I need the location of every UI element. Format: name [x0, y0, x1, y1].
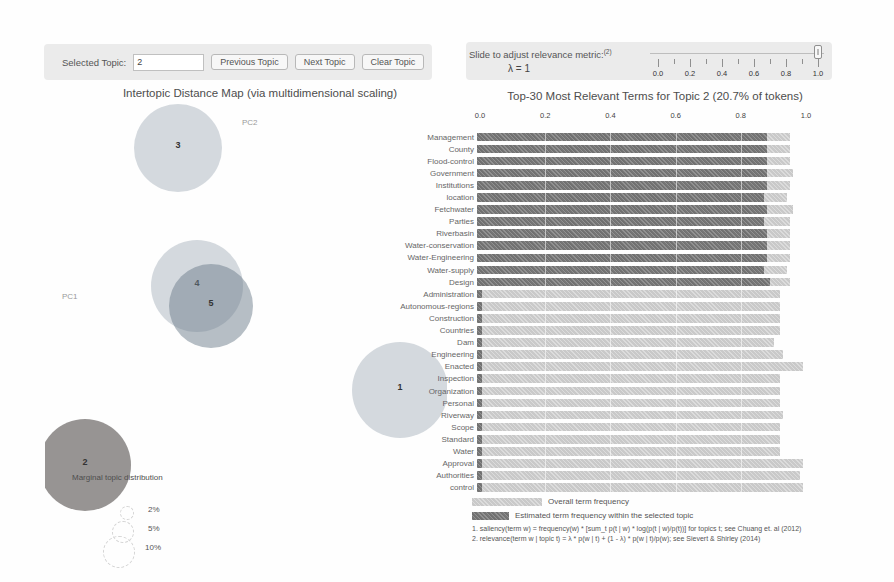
topic-frequency-bar[interactable] — [477, 169, 767, 178]
size-legend-circle-large — [103, 536, 135, 568]
overall-frequency-bar[interactable] — [477, 459, 803, 468]
term-label[interactable]: Countries — [373, 326, 477, 335]
term-label[interactable]: Organization — [373, 387, 477, 396]
term-label[interactable]: Flood-control — [373, 157, 477, 166]
term-bar-zone — [477, 433, 803, 445]
selected-topic-input[interactable] — [133, 54, 204, 71]
overall-frequency-bar[interactable] — [477, 290, 780, 299]
topic-frequency-bar[interactable] — [477, 205, 767, 214]
topic-frequency-bar[interactable] — [477, 387, 482, 396]
term-label[interactable]: Fetchwater — [373, 205, 477, 214]
topic-frequency-bar[interactable] — [477, 133, 767, 142]
topic-frequency-bar[interactable] — [477, 217, 764, 226]
overall-frequency-bar[interactable] — [477, 387, 780, 396]
topic-frequency-bar[interactable] — [477, 362, 482, 371]
slider-tick-label: 1.0 — [808, 69, 828, 78]
term-label[interactable]: Design — [373, 278, 477, 287]
previous-topic-button[interactable]: Previous Topic — [211, 54, 287, 70]
term-label[interactable]: Riverbasin — [373, 229, 477, 238]
term-label[interactable]: Water — [373, 447, 477, 456]
term-bar-zone — [477, 337, 803, 349]
overall-frequency-bar[interactable] — [477, 302, 780, 311]
topic-frequency-bar[interactable] — [477, 145, 767, 154]
topic-frequency-bar[interactable] — [477, 399, 482, 408]
overall-frequency-bar[interactable] — [477, 350, 783, 359]
term-label[interactable]: Authorities — [373, 471, 477, 480]
term-label[interactable]: Parties — [373, 217, 477, 226]
overall-frequency-bar[interactable] — [477, 435, 780, 444]
term-label[interactable]: Management — [373, 133, 477, 142]
topic-frequency-bar[interactable] — [477, 350, 482, 359]
topic-frequency-bar[interactable] — [477, 314, 482, 323]
bar-legend: Overall term frequency Estimated term fr… — [472, 497, 693, 525]
topic-controls-panel: Selected Topic: Previous Topic Next Topi… — [44, 44, 432, 80]
topic-circle-number[interactable]: 5 — [208, 298, 213, 308]
bar-axis-tick-label: 1.0 — [794, 111, 818, 120]
topic-frequency-bar[interactable] — [477, 229, 767, 238]
topic-frequency-bar[interactable] — [477, 483, 482, 492]
term-label[interactable]: Engineering — [373, 350, 477, 359]
topic-frequency-bar[interactable] — [477, 193, 764, 202]
topic-frequency-bar[interactable] — [477, 423, 482, 432]
overall-frequency-bar[interactable] — [477, 411, 783, 420]
term-label[interactable]: control — [373, 483, 477, 492]
term-label[interactable]: Government — [373, 169, 477, 178]
term-label[interactable]: Inspection — [373, 374, 477, 383]
overall-frequency-bar[interactable] — [477, 362, 803, 371]
term-label[interactable]: Dam — [373, 338, 477, 347]
overall-frequency-swatch — [472, 498, 542, 506]
topic-frequency-bar[interactable] — [477, 471, 482, 480]
term-label[interactable]: Water-conservation — [373, 241, 477, 250]
overall-frequency-bar[interactable] — [477, 423, 780, 432]
term-label[interactable]: Enacted — [373, 362, 477, 371]
term-bars-title: Top-30 Most Relevant Terms for Topic 2 (… — [460, 90, 850, 102]
term-label[interactable]: Autonomous-regions — [373, 302, 477, 311]
overall-frequency-bar[interactable] — [477, 326, 780, 335]
slider-track[interactable] — [650, 53, 824, 54]
term-label[interactable]: Personal — [373, 399, 477, 408]
topic-frequency-bar[interactable] — [477, 266, 764, 275]
overall-frequency-bar[interactable] — [477, 399, 780, 408]
topic-frequency-bar[interactable] — [477, 241, 767, 250]
slider-tick — [690, 59, 691, 67]
term-label[interactable]: Water-supply — [373, 266, 477, 275]
term-bar-zone — [477, 312, 803, 324]
slider-handle[interactable] — [814, 45, 822, 59]
clear-topic-button[interactable]: Clear Topic — [362, 54, 425, 70]
term-label[interactable]: Riverway — [373, 411, 477, 420]
topic-circle-number[interactable]: 3 — [175, 140, 180, 150]
overall-frequency-bar[interactable] — [477, 447, 780, 456]
topic-frequency-bar[interactable] — [477, 254, 767, 263]
topic-frequency-bar[interactable] — [477, 326, 482, 335]
topic-frequency-bar[interactable] — [477, 447, 482, 456]
next-topic-button[interactable]: Next Topic — [295, 54, 355, 70]
term-label[interactable]: Administration — [373, 290, 477, 299]
topic-circle-2[interactable] — [45, 419, 131, 511]
term-bar-zone — [477, 458, 803, 470]
overall-frequency-bar[interactable] — [477, 483, 803, 492]
term-label[interactable]: County — [373, 145, 477, 154]
topic-frequency-bar[interactable] — [477, 338, 482, 347]
topic-circle-number[interactable]: 2 — [82, 457, 87, 467]
topic-frequency-bar[interactable] — [477, 435, 482, 444]
term-label[interactable]: Standard — [373, 435, 477, 444]
topic-frequency-bar[interactable] — [477, 278, 770, 287]
topic-frequency-bar[interactable] — [477, 459, 482, 468]
term-bar-zone — [477, 264, 803, 276]
topic-frequency-bar[interactable] — [477, 181, 767, 190]
term-label[interactable]: Scope — [373, 423, 477, 432]
topic-frequency-bar[interactable] — [477, 302, 482, 311]
topic-frequency-bar[interactable] — [477, 374, 482, 383]
term-label[interactable]: Construction — [373, 314, 477, 323]
overall-frequency-bar[interactable] — [477, 471, 800, 480]
overall-frequency-bar[interactable] — [477, 314, 780, 323]
overall-frequency-bar[interactable] — [477, 338, 774, 347]
term-label[interactable]: location — [373, 193, 477, 202]
topic-frequency-bar[interactable] — [477, 290, 482, 299]
topic-frequency-bar[interactable] — [477, 411, 482, 420]
term-label[interactable]: Approval — [373, 459, 477, 468]
term-label[interactable]: Institutions — [373, 181, 477, 190]
topic-frequency-bar[interactable] — [477, 157, 767, 166]
term-label[interactable]: Water-Engineering — [373, 253, 477, 262]
overall-frequency-bar[interactable] — [477, 374, 780, 383]
